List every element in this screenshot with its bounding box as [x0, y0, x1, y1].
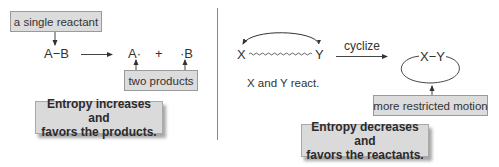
plus-sign: + [155, 46, 163, 61]
reactant-label: a single reactant [14, 16, 98, 28]
wavy-chain [249, 53, 312, 55]
products-label: two products [128, 75, 193, 87]
entropy-decreases-callout: Entropy decreases and favors the reactan… [301, 124, 429, 157]
products-label-box: two products [124, 70, 198, 91]
atom-x: X [237, 47, 246, 62]
conclusion-left-line2: favors the products. [36, 125, 162, 139]
restricted-motion-box: more restricted motion [373, 95, 488, 116]
entropy-increases-callout: Entropy increases and favors the product… [35, 101, 163, 134]
chain-caption: X and Y react. [247, 77, 319, 89]
atom-y: Y [315, 47, 324, 62]
conclusion-left-line1: Entropy increases and [36, 97, 162, 125]
cyclize-label: cyclize [344, 39, 380, 53]
reactant-label-box: a single reactant [10, 11, 102, 32]
reactant-formula: A−B [44, 46, 69, 61]
ring-formula: X−Y [419, 49, 446, 64]
product-b: ·B [180, 46, 193, 61]
conclusion-right-line1: Entropy decreases and [302, 120, 428, 148]
conclusion-right-line2: favors the reactants. [302, 148, 428, 162]
restricted-motion-label: more restricted motion [373, 100, 487, 112]
reaction-arc-arrow [243, 33, 319, 44]
product-a: A· [128, 46, 141, 61]
